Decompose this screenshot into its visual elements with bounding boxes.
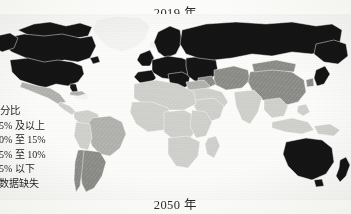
legend-item-no-data: 数据缺失 [0,177,88,192]
map-figure: 2019 年 [0,0,351,214]
legend-item-label: 5% 至 10% [0,150,46,161]
legend-item-label: 5% 及以上 [0,121,45,132]
legend-item-10-to-15-percent: 0% 至 15% [0,133,88,148]
legend-item-5-to-10-percent: 5% 至 10% [0,148,88,163]
legend-title: 分比 [0,105,88,116]
legend-item-label: 5% 以下 [0,164,35,175]
legend-item-label: 0% 至 15% [0,135,46,146]
map-legend: 分比 5% 及以上 0% 至 15% 5% 至 10% 5% 以下 数据缺失 [0,105,88,191]
legend-item-label: 数据缺失 [0,179,39,190]
legend-item-under-5-percent: 5% 以下 [0,162,88,177]
map-title-bottom: 2050 年 [0,194,351,213]
region-tasmania [314,179,324,187]
legend-item-15-percent-and-above: 5% 及以上 [0,119,88,134]
